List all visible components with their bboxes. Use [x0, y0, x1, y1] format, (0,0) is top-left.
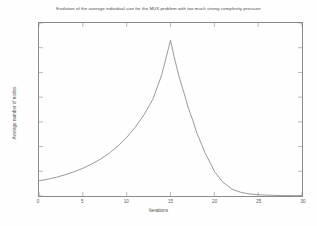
- x-axis-label: Iterations: [0, 208, 317, 213]
- x-tick-label: 15: [159, 199, 183, 204]
- x-tick-label: 30: [291, 199, 315, 204]
- plot-area: [38, 22, 303, 197]
- x-tick-label: 25: [247, 199, 271, 204]
- chart-figure: Evolution of the average individual size…: [0, 0, 317, 226]
- y-axis-label: Average number of nodes: [12, 53, 17, 173]
- x-tick-label: 10: [114, 199, 138, 204]
- plot-svg: [39, 23, 302, 196]
- data-series-line: [39, 40, 302, 195]
- x-tick-label: 5: [70, 199, 94, 204]
- x-tick-label: 0: [26, 199, 50, 204]
- chart-title: Evolution of the average individual size…: [0, 6, 317, 11]
- x-tick-label: 20: [203, 199, 227, 204]
